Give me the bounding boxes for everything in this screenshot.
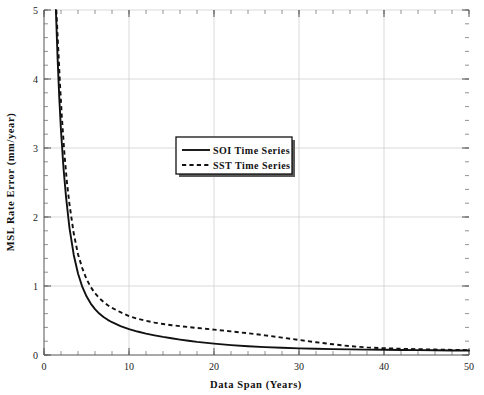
x-tick-label: 0: [42, 361, 47, 372]
y-tick-label: 5: [33, 5, 38, 16]
y-axis-title: MSL Rate Error (mm/year): [5, 113, 17, 252]
x-tick-label: 50: [464, 361, 474, 372]
y-tick-label: 4: [33, 74, 38, 85]
x-axis-title: Data Span (Years): [210, 379, 302, 391]
chart-background: [0, 0, 484, 395]
y-tick-label: 3: [33, 143, 38, 154]
y-tick-label: 2: [33, 212, 38, 223]
legend-label-sst: SST Time Series: [213, 160, 291, 171]
y-tick-label: 1: [33, 281, 38, 292]
chart-container: 01020304050 012345 Data Span (Years) MSL…: [0, 0, 484, 395]
x-tick-label: 30: [294, 361, 304, 372]
msl-rate-error-chart: 01020304050 012345 Data Span (Years) MSL…: [0, 0, 484, 395]
x-tick-label: 20: [209, 361, 219, 372]
legend: SOI Time Series SST Time Series: [176, 137, 295, 177]
x-tick-label: 10: [124, 361, 134, 372]
y-tick-label: 0: [33, 350, 38, 361]
legend-label-soi: SOI Time Series: [213, 145, 290, 156]
x-tick-label: 40: [379, 361, 389, 372]
